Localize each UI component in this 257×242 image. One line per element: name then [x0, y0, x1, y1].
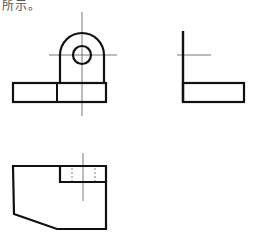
side-base-rect — [183, 83, 244, 102]
top-view — [13, 153, 106, 229]
front-base-rect — [13, 83, 106, 102]
technical-drawing — [0, 0, 257, 242]
front-view — [13, 12, 117, 116]
side-view — [177, 31, 244, 102]
